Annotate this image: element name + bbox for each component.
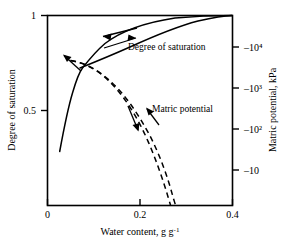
x-axis-title-superscript: -1 <box>174 226 180 234</box>
y-tick-right-1e4-text: –10⁴ <box>243 42 263 53</box>
saturation-wetting-curve <box>60 16 232 152</box>
annotation-matric-potential: Matric potential <box>152 104 213 114</box>
intersection-arrow <box>63 55 81 72</box>
figure-container: 1 0.5 0 0.2 0.4 –10⁴ –10³ –10² –10 <box>0 0 290 243</box>
y-tick-label-right-1e3: –10³ <box>243 83 262 94</box>
soil-water-characteristic-chart: 1 0.5 0 0.2 0.4 –10⁴ –10³ –10² –10 <box>0 0 290 243</box>
y-tick-label-right-1e4: –10⁴ <box>243 42 263 53</box>
y-tick-label-right-1e2: –10² <box>243 124 262 135</box>
y-tick-right-1e2-text: –10² <box>243 124 262 135</box>
y-tick-label-left-1: 1 <box>31 10 36 21</box>
x-tick-label-0.4: 0.4 <box>226 209 239 220</box>
matric-drying-arrow <box>128 106 140 132</box>
y-tick-right-1e1-text: –10 <box>243 165 259 176</box>
matric-potential-curve-b <box>71 61 176 206</box>
x-axis-title: Water content, g g-1 <box>101 226 180 238</box>
y-tick-label-right-1e1: –10 <box>243 165 259 176</box>
x-tick-label-0.2: 0.2 <box>134 209 147 220</box>
x-tick-label-0: 0 <box>45 209 50 220</box>
y-tick-right-1e3-text: –10³ <box>243 83 262 94</box>
annotation-degree-of-saturation: Degree of saturation <box>128 42 206 52</box>
y-tick-label-left-0.5: 0.5 <box>24 105 37 116</box>
y-axis-title-right: Matric potential, kPa <box>267 67 278 152</box>
x-axis-title-text: Water content, g g <box>101 226 174 237</box>
y-axis-title-left: Degree of saturation <box>6 69 17 151</box>
matric-potential-curve-a <box>71 61 171 206</box>
